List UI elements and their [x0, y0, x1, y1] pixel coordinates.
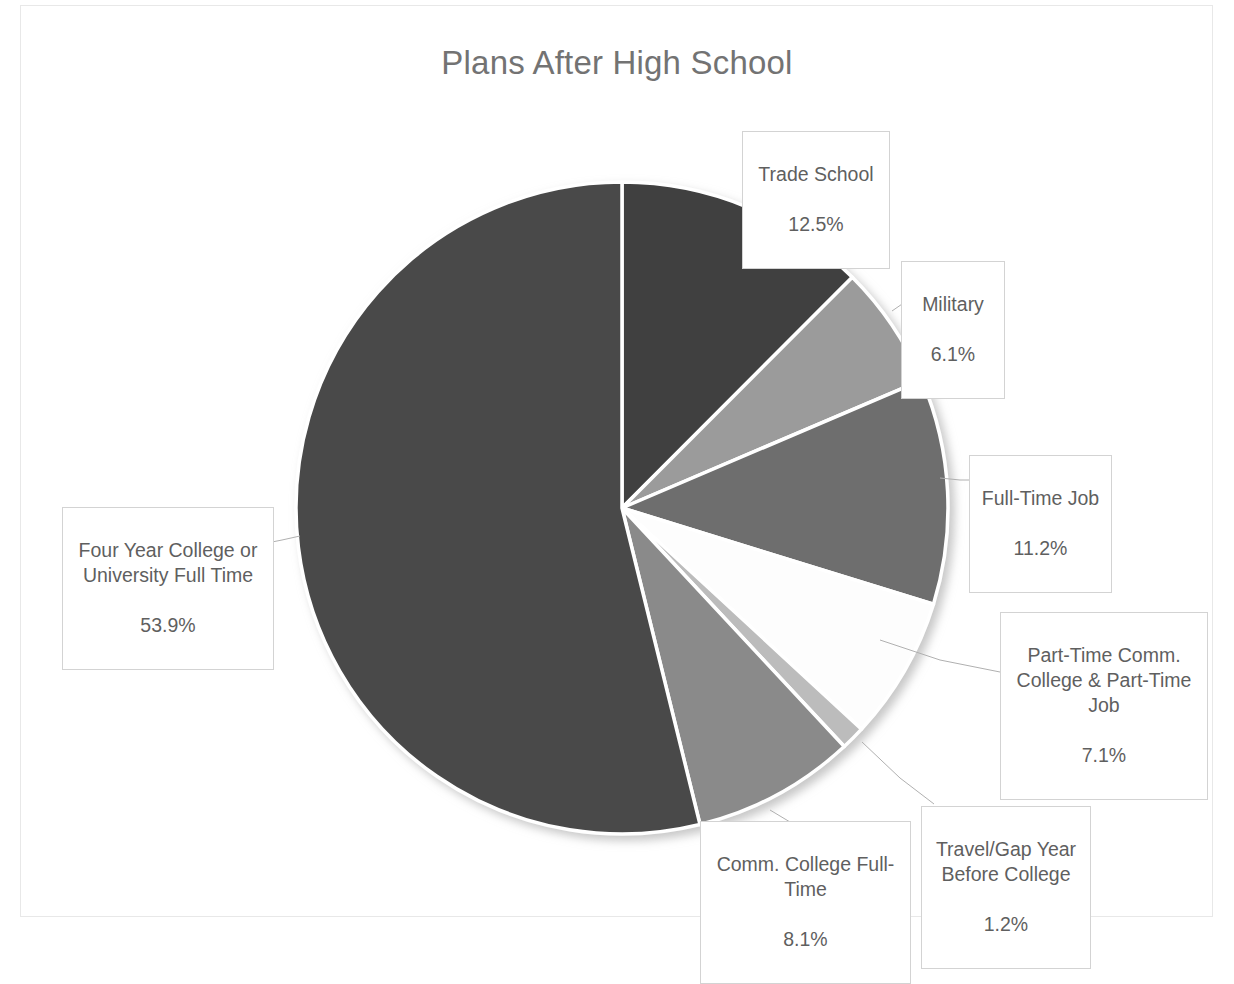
- callout-comm-college: Comm. College Full-Time 8.1%: [700, 821, 911, 984]
- callout-trade-school: Trade School 12.5%: [742, 131, 890, 269]
- callout-label-full-time-job: Full-Time Job: [978, 486, 1103, 511]
- callout-percent-comm-college: 8.1%: [709, 927, 902, 952]
- pie-slices-group: [296, 182, 948, 834]
- callout-percent-part-time: 7.1%: [1009, 743, 1199, 768]
- leader-line-travel-gap-year: [862, 742, 934, 804]
- callout-military: Military 6.1%: [901, 261, 1005, 399]
- callout-part-time: Part-Time Comm. College & Part-Time Job …: [1000, 612, 1208, 800]
- callout-label-military: Military: [910, 292, 996, 317]
- callout-percent-trade-school: 12.5%: [751, 212, 881, 237]
- callout-label-trade-school: Trade School: [751, 162, 881, 187]
- callout-percent-travel-gap-year: 1.2%: [930, 912, 1082, 937]
- callout-percent-military: 6.1%: [910, 342, 996, 367]
- callout-label-comm-college: Comm. College Full-Time: [709, 852, 902, 902]
- callout-four-year: Four Year College or University Full Tim…: [62, 507, 274, 670]
- callout-label-travel-gap-year: Travel/Gap Year Before College: [930, 837, 1082, 887]
- callout-percent-full-time-job: 11.2%: [978, 536, 1103, 561]
- callout-percent-four-year: 53.9%: [71, 613, 265, 638]
- callout-travel-gap-year: Travel/Gap Year Before College 1.2%: [921, 806, 1091, 969]
- callout-full-time-job: Full-Time Job 11.2%: [969, 455, 1112, 593]
- callout-label-part-time: Part-Time Comm. College & Part-Time Job: [1009, 643, 1199, 718]
- callout-label-four-year: Four Year College or University Full Tim…: [71, 538, 265, 588]
